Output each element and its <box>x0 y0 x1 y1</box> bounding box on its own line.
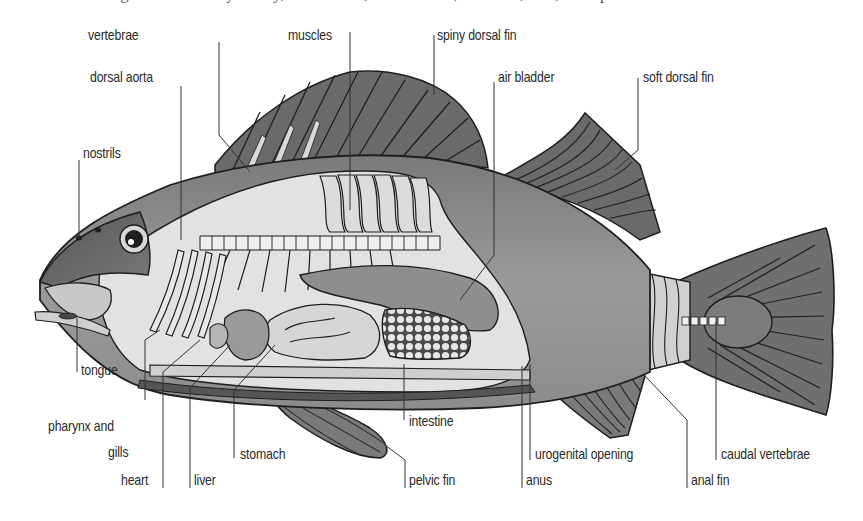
label-tongue: tongue <box>81 362 118 377</box>
label-dorsal-aorta: dorsal aorta <box>90 69 153 84</box>
label-spiny-dorsal-fin: spiny dorsal fin <box>437 27 516 42</box>
label-air-bladder: air bladder <box>498 69 554 84</box>
eye <box>120 225 148 253</box>
caudal-vertebrae-graphic <box>682 317 725 325</box>
label-pelvic-fin: pelvic fin <box>409 472 455 487</box>
tongue-graphic <box>59 313 77 319</box>
label-urogenital-opening: urogenital opening <box>535 446 633 461</box>
label-stomach: stomach <box>240 446 285 461</box>
label-heart: heart <box>121 472 148 487</box>
label-caudal-vertebrae: caudal vertebrae <box>721 446 810 461</box>
label-pharynx-and-gills-2: gills <box>108 444 128 459</box>
label-vertebrae: vertebrae <box>88 27 138 42</box>
label-anal-fin: anal fin <box>691 472 729 487</box>
label-muscles: muscles <box>288 27 332 42</box>
label-nostrils: nostrils <box>83 145 121 160</box>
fish-anatomy-diagram: … the organs of the body cavity, the vis… <box>0 0 863 521</box>
label-intestine: intestine <box>409 413 453 428</box>
label-liver: liver <box>194 472 216 487</box>
label-pharynx-and-gills-1: pharynx and <box>48 418 114 433</box>
label-soft-dorsal-fin: soft dorsal fin <box>643 69 714 84</box>
label-anus: anus <box>526 472 552 487</box>
